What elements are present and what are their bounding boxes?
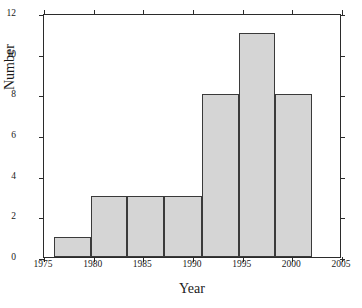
histogram-bar — [127, 196, 164, 257]
y-tick-mark — [39, 96, 44, 97]
histogram-bar — [54, 237, 91, 257]
histogram-bar — [275, 94, 312, 257]
y-tick-mark — [39, 137, 44, 138]
y-tick-mark — [39, 15, 44, 16]
histogram-bar — [239, 33, 276, 257]
x-tick-label: 1975 — [34, 260, 53, 270]
y-tick-mark — [340, 15, 345, 16]
x-tick-mark — [44, 10, 45, 15]
y-tick-mark — [340, 56, 345, 57]
y-axis-title: Number — [2, 44, 18, 90]
x-tick-mark — [143, 10, 144, 15]
y-tick-label: 4 — [11, 172, 16, 182]
x-tick-label: 1985 — [133, 260, 152, 270]
y-tick-mark — [39, 178, 44, 179]
x-tick-label: 1995 — [232, 260, 251, 270]
x-tick-mark — [292, 10, 293, 15]
histogram-bar — [91, 196, 128, 257]
x-tick-mark — [243, 10, 244, 15]
y-tick-mark — [340, 178, 345, 179]
chart-figure: 024681012 1975198019851990199520002005 Y… — [0, 0, 362, 308]
y-tick-label: 12 — [7, 9, 17, 19]
y-tick-label: 0 — [11, 253, 16, 263]
histogram-bar — [202, 94, 239, 257]
y-tick-mark — [39, 56, 44, 57]
y-tick-label: 6 — [11, 131, 16, 141]
x-tick-label: 1980 — [83, 260, 102, 270]
histogram-bar — [164, 196, 202, 257]
y-tick-mark — [340, 218, 345, 219]
y-tick-label: 2 — [11, 212, 16, 222]
x-tick-label: 1990 — [183, 260, 202, 270]
y-tick-label: 8 — [11, 90, 16, 100]
x-tick-mark — [193, 10, 194, 15]
x-axis-title: Year — [43, 281, 341, 297]
x-tick-label: 2005 — [332, 260, 351, 270]
y-tick-mark — [340, 137, 345, 138]
y-tick-mark — [340, 96, 345, 97]
x-tick-label: 2000 — [282, 260, 301, 270]
bar-series — [44, 15, 340, 257]
plot-area — [43, 14, 341, 258]
x-tick-mark — [94, 10, 95, 15]
y-tick-mark — [39, 218, 44, 219]
x-tick-mark — [342, 10, 343, 15]
